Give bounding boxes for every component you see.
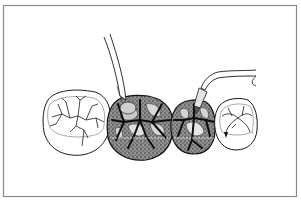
- tooth-4: [215, 98, 258, 150]
- tooth-2: [107, 95, 173, 160]
- illustration-canvas: [0, 0, 301, 202]
- tooth-1: [43, 90, 110, 155]
- dental-illustration: [0, 0, 301, 202]
- tooth-3: [171, 100, 215, 154]
